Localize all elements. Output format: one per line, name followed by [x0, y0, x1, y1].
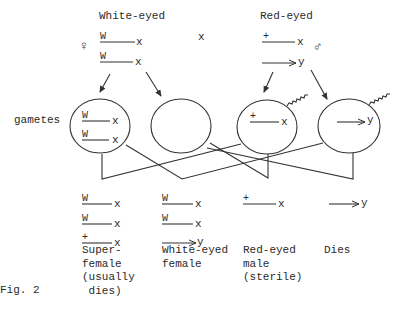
cross-line-egg2-spermy: [207, 148, 353, 179]
offspring-label-white-eyed-female: White-eyedfemale: [162, 244, 228, 271]
cross-symbol: x: [198, 31, 205, 44]
egg-chrom-1-type: x: [112, 115, 119, 128]
gamete-egg-ww: [70, 99, 130, 153]
gamete-sperm-x: [237, 100, 297, 154]
female-symbol-icon: ♀: [80, 40, 88, 53]
off2-allele-1: W: [162, 192, 168, 205]
arrow-female-to-egg1: [100, 74, 110, 92]
off2-chrom-2-type: x: [195, 218, 202, 231]
off1-chrom-2-type: x: [114, 218, 121, 231]
offspring-label-red-eyed-male: Red-eyedmale(sterile): [243, 244, 302, 285]
male-parent-label: Red-eyed: [260, 10, 313, 23]
female-allele-1: W: [100, 30, 106, 43]
arrow-female-to-egg2: [146, 72, 161, 96]
off1-chrom-1-type: x: [114, 198, 121, 211]
male-chrom-y-type: y: [298, 56, 305, 69]
female-chrom-2-type: x: [135, 56, 142, 69]
off1-allele-1: W: [82, 192, 88, 205]
gamete-egg-empty: [151, 99, 211, 153]
sperm-y-tail: [369, 94, 390, 105]
gametes-label: gametes: [14, 114, 60, 127]
egg-allele-2: W: [82, 128, 88, 141]
off2-chrom-1-type: x: [195, 198, 202, 211]
offspring-label-dies: Dies: [324, 244, 350, 258]
arrow-male-to-sperm-y: [311, 70, 327, 99]
off3-chrom-x-type: x: [278, 198, 285, 211]
off1-allele-3: +: [82, 231, 88, 244]
offspring-label-superfemale: Super-female(usually dies): [82, 244, 135, 298]
egg-chrom-2-type: x: [112, 134, 119, 147]
male-allele-x: +: [263, 30, 269, 43]
off3-allele-x: +: [243, 192, 249, 205]
female-chrom-1-type: x: [136, 36, 143, 49]
egg-allele-1: W: [82, 109, 88, 122]
sperm-x-allele: +: [250, 110, 256, 123]
sperm-x-type: x: [281, 116, 288, 129]
sperm-y-type: y: [367, 114, 374, 127]
off1-allele-2: W: [82, 212, 88, 225]
arrow-male-to-sperm-x: [264, 72, 273, 92]
sperm-x-tail: [287, 95, 308, 106]
female-parent-label: White-eyed: [99, 10, 165, 23]
male-chrom-x-type: x: [297, 36, 304, 49]
male-symbol-icon: ♂: [314, 40, 322, 53]
cross-line-egg2-spermx: [210, 143, 268, 178]
figure-label: Fig. 2: [0, 284, 40, 297]
off4-chrom-y-type: y: [361, 197, 368, 210]
off2-allele-2: W: [162, 212, 168, 225]
female-allele-2: W: [100, 50, 106, 63]
